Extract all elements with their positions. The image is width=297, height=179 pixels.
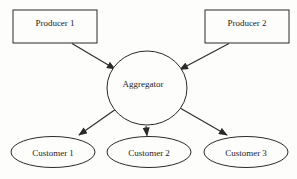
edge-producer1-to-aggregator: [72, 44, 115, 70]
node-producer1: Producer 1: [13, 10, 97, 43]
node-aggregator: Aggregator: [107, 51, 187, 125]
node-customer2: Customer 2: [107, 137, 191, 168]
edge-aggregator-to-customer2: [146, 126, 147, 136]
customer2-label: Customer 2: [128, 148, 170, 158]
customer3-label: Customer 3: [225, 148, 267, 158]
edge-producer2-to-aggregator: [180, 44, 229, 70]
node-customer3: Customer 3: [204, 137, 288, 168]
producer-aggregator-customer-diagram: Producer 1 Producer 2 Aggregator Custome…: [0, 0, 297, 179]
node-customer1: Customer 1: [11, 137, 95, 168]
aggregator-label: Aggregator: [123, 79, 164, 89]
customer1-label: Customer 1: [32, 148, 74, 158]
diagram-canvas: Producer 1 Producer 2 Aggregator Custome…: [0, 0, 297, 179]
producer1-label: Producer 1: [35, 18, 74, 28]
producer2-label: Producer 2: [227, 18, 266, 28]
node-producer2: Producer 2: [205, 10, 289, 43]
edge-aggregator-to-customer1: [79, 109, 116, 135]
edge-aggregator-to-customer3: [180, 108, 227, 135]
